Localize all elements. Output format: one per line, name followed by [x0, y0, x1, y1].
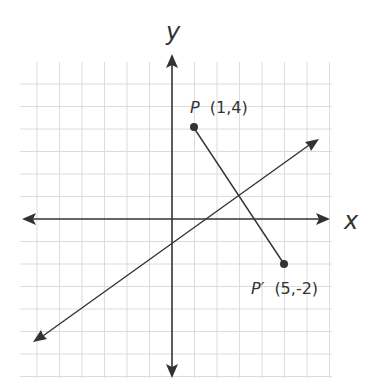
y-axis-label: y — [165, 18, 181, 46]
coordinate-plane: y x P (1,4) P′ (5,-2) — [0, 0, 379, 389]
grid — [20, 62, 332, 378]
point-p-prime-label: P′ (5,-2) — [251, 279, 318, 298]
line-of-reflection — [33, 139, 319, 342]
y-axis — [166, 54, 178, 378]
point-p-prime — [280, 260, 288, 268]
x-axis — [22, 213, 330, 225]
point-p-label: P (1,4) — [190, 98, 248, 117]
x-axis-label: x — [343, 207, 359, 235]
point-p — [190, 123, 198, 131]
